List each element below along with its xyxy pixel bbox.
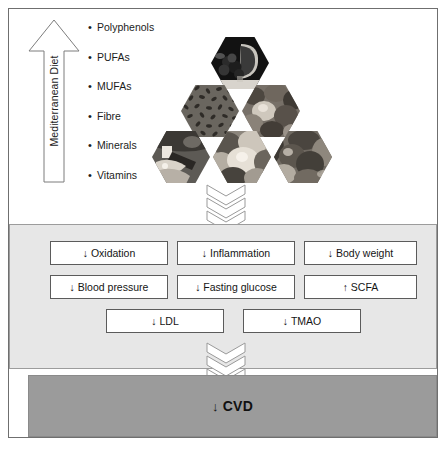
nutrient-item-polyphenols: •Polyphenols [88, 22, 198, 33]
figure-root: Mediterranean Diet •Polyphenols •PUFAs •… [0, 0, 448, 449]
effect-box-body-weight[interactable]: ↓ Body weight [304, 241, 417, 265]
hex-fish-seafood [152, 130, 210, 184]
nutrient-label: Minerals [97, 139, 137, 151]
effect-label: Inflammation [210, 247, 270, 259]
nutrient-label: PUFAs [97, 51, 130, 63]
effect-arrow-icon: ↓ [83, 247, 88, 259]
effect-arrow-icon: ↓ [328, 247, 333, 259]
bullet-icon: • [88, 111, 97, 122]
effect-arrow-icon: ↑ [343, 281, 348, 293]
effect-arrow-icon: ↓ [202, 247, 207, 259]
hex-legumes-grains [181, 84, 239, 138]
nutrient-label: MUFAs [97, 80, 131, 92]
bullet-icon: • [88, 81, 97, 92]
chevron-arrow-diet-to-effects-icon [204, 184, 248, 228]
vegetables-image [274, 130, 332, 184]
effect-label: Body weight [336, 247, 393, 259]
effect-box-scfa[interactable]: ↑ SCFA [304, 275, 417, 299]
nutrient-label: Polyphenols [97, 21, 154, 33]
fruits-image [213, 130, 271, 184]
hex-red-wine-grapes [211, 36, 269, 90]
effect-box-blood-pressure[interactable]: ↓ Blood pressure [50, 275, 168, 299]
effect-label: Fasting glucose [203, 281, 277, 293]
hex-vegetables [274, 130, 332, 184]
hex-nuts-olives [242, 84, 300, 138]
effect-label: SCFA [351, 281, 378, 293]
effect-box-ldl[interactable]: ↓ LDL [106, 309, 224, 333]
effect-box-fasting-glucose[interactable]: ↓ Fasting glucose [177, 275, 295, 299]
legumes-grains-image [181, 84, 239, 138]
effect-label: Blood pressure [78, 281, 149, 293]
nuts-olives-image [242, 84, 300, 138]
bullet-icon: • [88, 22, 97, 33]
mediterranean-diet-arrow-icon [26, 17, 82, 185]
effect-label: TMAO [291, 315, 321, 327]
effect-label: Oxidation [91, 247, 135, 259]
effect-label: LDL [159, 315, 178, 327]
effect-arrow-icon: ↓ [151, 315, 156, 327]
nutrient-label: Fibre [97, 110, 121, 122]
nutrient-label: Vitamins [97, 169, 137, 181]
effect-arrow-icon: ↓ [70, 281, 75, 293]
effect-arrow-icon: ↓ [195, 281, 200, 293]
effect-box-oxidation[interactable]: ↓ Oxidation [50, 241, 168, 265]
effect-box-tmao[interactable]: ↓ TMAO [243, 309, 361, 333]
bullet-icon: • [88, 140, 97, 151]
effect-arrow-icon: ↓ [283, 315, 288, 327]
cvd-arrow-icon: ↓ [212, 399, 219, 414]
food-hexagon-cluster [150, 34, 345, 184]
bullet-icon: • [88, 170, 97, 181]
effect-box-inflammation[interactable]: ↓ Inflammation [177, 241, 295, 265]
hex-fruits [213, 130, 271, 184]
red-wine-grapes-image [211, 36, 269, 90]
fish-seafood-image [152, 130, 210, 184]
cvd-outcome-label-wrap: ↓ CVD [28, 375, 437, 437]
cvd-outcome-label: CVD [223, 398, 253, 414]
bullet-icon: • [88, 52, 97, 63]
